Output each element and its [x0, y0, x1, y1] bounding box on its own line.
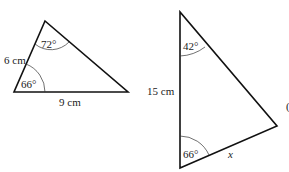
side-label-bottom: 9 cm: [59, 96, 81, 108]
triangle-2: 42° 66° 15 cm x (: [147, 12, 289, 168]
partial-edge-label: (: [286, 100, 289, 113]
side-label-left: 6 cm: [4, 54, 26, 66]
side-label-left: 15 cm: [147, 85, 175, 97]
similar-triangles-diagram: 72° 66° 6 cm 9 cm 42° 66° 15 cm x (: [0, 0, 289, 172]
angle-label-top: 42°: [183, 40, 198, 52]
angle-label-bottom: 66°: [183, 148, 198, 160]
triangle-1: 72° 66° 6 cm 9 cm: [4, 21, 128, 108]
angle-label-bottom-left: 66°: [21, 78, 36, 90]
side-label-x: x: [227, 148, 233, 160]
triangle-2-outline: [180, 12, 277, 168]
angle-label-top: 72°: [41, 38, 56, 50]
